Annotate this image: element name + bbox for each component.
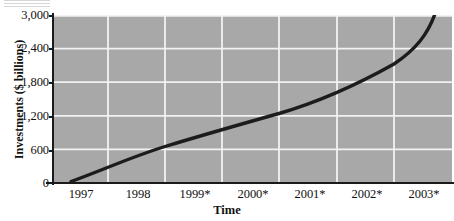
chart-screenshot: 3,000 2,400 1,800 1,200 600 0 1997 1998 … (0, 0, 454, 221)
x-tick-label-1999: 1999* (165, 188, 225, 201)
x-tick-label-2003: 2003* (394, 188, 454, 201)
y-tick-mark-2400 (49, 48, 53, 50)
x-tick-label-2000: 2000* (223, 188, 283, 201)
data-curve (53, 15, 452, 183)
x-tick-label-1997: 1997 (51, 188, 111, 201)
x-tick-label-2001: 2001* (280, 188, 340, 201)
x-axis-title: Time (0, 203, 454, 218)
y-axis-title: Investments ($ billions) (12, 20, 27, 180)
x-axis-line (46, 182, 454, 184)
y-axis-line (52, 13, 54, 185)
plot-area (53, 15, 452, 183)
y-tick-mark-1200 (49, 116, 53, 118)
x-tick-label-2002: 2002* (337, 188, 397, 201)
y-tick-mark-3000 (49, 15, 53, 17)
y-tick-mark-600 (49, 150, 53, 152)
x-tick-label-1998: 1998 (108, 188, 168, 201)
y-tick-mark-1800 (49, 82, 53, 84)
